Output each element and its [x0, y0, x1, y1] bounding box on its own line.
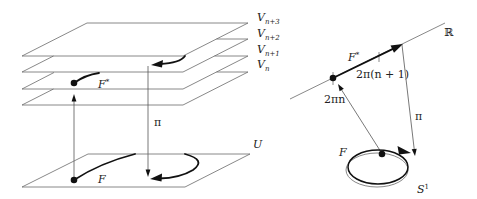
arrowhead-down-icon — [146, 170, 151, 178]
loop-f — [348, 150, 408, 184]
lift-start-dot — [71, 80, 78, 87]
arrowhead-left-icon — [150, 174, 162, 182]
sheet-v-n1 — [22, 56, 248, 89]
path-continuation-arrow — [159, 154, 198, 179]
real-line-label: ℝ — [444, 26, 454, 39]
left-diagram: Vn+3 Vn+2 Vn+1 Vn F* π U F — [22, 11, 280, 187]
arrowhead-down-icon — [412, 149, 417, 156]
label-2pi-n-plus-1: 2π(n + 1) — [356, 68, 409, 81]
sheet-label-v-n1: Vn+1 — [257, 43, 280, 58]
projection-line-pi — [402, 45, 414, 150]
arrowhead-up-icon — [338, 84, 344, 91]
base-plane-u — [22, 154, 250, 187]
sheet-label-v-n2: Vn+2 — [257, 27, 280, 42]
right-diagram: ℝ F* 2π(n + 1) 2πn π F S — [290, 23, 454, 196]
sheet-label-v-n3: Vn+3 — [257, 11, 280, 26]
sheet-label-v-n: Vn — [257, 58, 270, 73]
arrowhead-left-icon — [151, 60, 163, 68]
loop-label-f: F — [338, 146, 347, 159]
sheet-v-n3 — [22, 23, 248, 56]
lift-continuation-arrow — [160, 56, 185, 64]
path-start-dot — [71, 177, 78, 184]
label-2pi-n: 2πn — [324, 93, 345, 106]
circle-label-s1: S1 — [417, 183, 429, 196]
diagram-svg: Vn+3 Vn+2 Vn+1 Vn F* π U F — [0, 0, 477, 199]
sheet-v-n2 — [22, 39, 248, 72]
arrowhead-right-icon — [398, 146, 412, 155]
covering-space-figure: Vn+3 Vn+2 Vn+1 Vn F* π U F — [0, 0, 477, 199]
sheet-v-n — [22, 72, 248, 105]
lift-path-f-star — [74, 73, 99, 83]
path-label-f: F — [97, 173, 106, 186]
arrowhead-right-icon — [391, 44, 404, 53]
lift-arrow-up — [341, 89, 381, 152]
projection-label-pi: π — [415, 110, 422, 123]
arrowhead-up-icon — [72, 94, 77, 102]
loop-start-dot — [379, 151, 386, 158]
lift-start-dot — [330, 75, 337, 82]
projection-label-pi: π — [154, 116, 161, 129]
circle-s1 — [346, 153, 408, 187]
lift-label-f-star: F* — [347, 51, 360, 64]
base-label-u: U — [253, 138, 263, 151]
